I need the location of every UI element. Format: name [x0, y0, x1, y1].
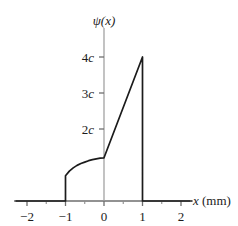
y-axis-tick-label: 3c — [54, 87, 94, 100]
wavefunction-plot-figure: ψ(x) x (mm) −2−1012 2c3c4c — [0, 0, 238, 226]
y-axis-tick-label: 4c — [54, 51, 94, 64]
x-axis-title-unit: (mm) — [202, 193, 231, 208]
x-axis-title: x (mm) — [193, 194, 231, 207]
x-axis-tick-label: −1 — [59, 210, 73, 223]
y-axis-tick-label-symbol: c — [88, 122, 94, 137]
y-axis-title: ψ(x) — [93, 14, 116, 27]
y-axis-tick-label-symbol: c — [88, 50, 94, 65]
y-axis-tick-label-symbol: c — [88, 86, 94, 101]
x-axis-tick-label: 0 — [101, 210, 108, 223]
x-axis-tick-label: 2 — [178, 210, 185, 223]
axes-group — [14, 28, 190, 201]
y-axis-tick-label: 2c — [54, 123, 94, 136]
y-axis-major-ticks — [99, 57, 104, 129]
x-axis-tick-label: −2 — [20, 210, 34, 223]
x-axis-tick-label: 1 — [139, 210, 146, 223]
